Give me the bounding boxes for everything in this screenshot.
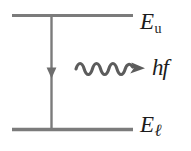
- lower-level-subscript: ℓ: [155, 121, 162, 140]
- transition-arrowhead-icon: [47, 68, 57, 79]
- photon-energy-label: hf: [152, 56, 169, 79]
- upper-level-subscript: u: [155, 21, 162, 36]
- photon-label-h: h: [152, 55, 164, 80]
- upper-level-symbol: E: [140, 9, 154, 34]
- photon-label-f: f: [163, 55, 169, 80]
- photon-wave-path: [76, 63, 133, 74]
- energy-level-diagram: Eu Eℓ hf: [0, 0, 191, 151]
- upper-energy-level-label: Eu: [140, 10, 162, 36]
- lower-energy-level-label: Eℓ: [140, 113, 162, 139]
- lower-level-symbol: E: [140, 112, 154, 137]
